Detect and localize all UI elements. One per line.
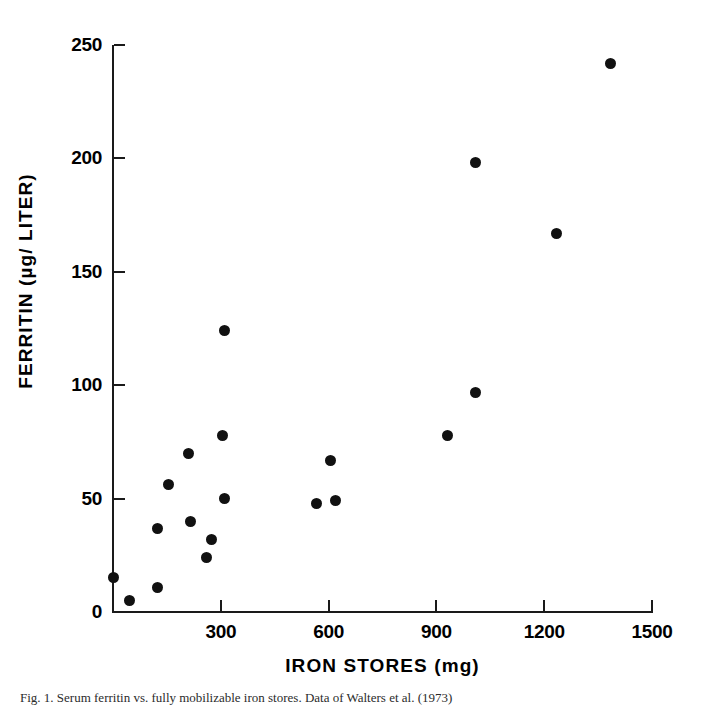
data-point (124, 595, 135, 606)
figure-caption: Fig. 1. Serum ferritin vs. fully mobiliz… (20, 690, 686, 706)
x-axis-tick-label-900: 900 (396, 622, 476, 641)
scatter-plot-figure: 050100150200250 30060090012001500 FERRIT… (0, 0, 706, 706)
data-point (311, 498, 322, 509)
data-point (330, 495, 341, 506)
data-point (183, 448, 194, 459)
data-point (219, 325, 230, 336)
y-axis-tick-label-50: 50 (36, 489, 102, 508)
x-axis-tick-label-600: 600 (289, 622, 369, 641)
plot-area (113, 45, 652, 612)
x-axis-title: IRON STORES (mg) (113, 655, 652, 677)
y-axis-tick-label-100: 100 (36, 375, 102, 394)
x-axis-tick-label-300: 300 (181, 622, 261, 641)
y-axis-tick-label-150: 150 (36, 262, 102, 281)
data-point (605, 58, 616, 69)
data-point (551, 228, 562, 239)
data-point (206, 534, 217, 545)
data-point (201, 552, 212, 563)
data-point (325, 455, 336, 466)
data-point (470, 157, 481, 168)
data-point (217, 430, 228, 441)
data-point (163, 479, 174, 490)
y-axis-title: FERRITIN (µg/ LITER) (15, 101, 37, 461)
x-axis-tick-label-1500: 1500 (612, 622, 692, 641)
y-axis-tick-label-0: 0 (36, 602, 102, 621)
data-point (152, 582, 163, 593)
data-point (470, 387, 481, 398)
y-axis-tick-label-200: 200 (36, 148, 102, 167)
data-point (442, 430, 453, 441)
data-point (108, 572, 119, 583)
data-point (152, 523, 163, 534)
x-axis-tick-label-1200: 1200 (504, 622, 584, 641)
data-point (185, 516, 196, 527)
data-point (219, 493, 230, 504)
y-axis-tick-label-250: 250 (36, 35, 102, 54)
